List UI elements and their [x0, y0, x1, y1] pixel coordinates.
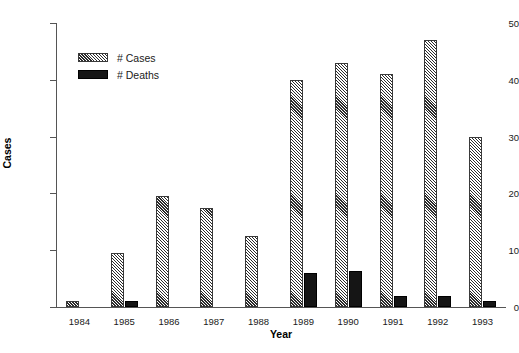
bar-cases-1987 — [200, 208, 213, 307]
legend-label-cases: # Cases — [117, 52, 156, 64]
legend-label-deaths: # Deaths — [117, 69, 159, 81]
bar-deaths-1989 — [304, 273, 317, 307]
bar-cases-1991 — [380, 74, 393, 307]
y-tick — [50, 250, 56, 251]
x-axis-line — [56, 307, 506, 308]
bar-cases-1988 — [245, 236, 258, 307]
bar-deaths-1993 — [483, 301, 496, 307]
y-tick — [50, 137, 56, 138]
bar-cases-1984 — [66, 301, 79, 307]
bar-cases-1992 — [424, 40, 437, 307]
y-tick — [50, 23, 56, 24]
legend-item-deaths: # Deaths — [78, 67, 228, 82]
x-tick-label: 1993 — [453, 316, 513, 327]
bar-cases-1990 — [335, 63, 348, 307]
chart-legend: # Cases # Deaths — [78, 50, 228, 84]
y-axis-title: Cases — [1, 103, 13, 203]
chart-figure: Cases Year 01020304050 19841985198619871… — [0, 0, 519, 353]
bar-deaths-1990 — [349, 271, 362, 307]
legend-item-cases: # Cases — [78, 50, 228, 65]
bar-cases-1985 — [111, 253, 124, 307]
bar-deaths-1985 — [125, 301, 138, 307]
y-tick — [50, 193, 56, 194]
y-tick — [50, 80, 56, 81]
bar-cases-1989 — [290, 80, 303, 307]
bar-deaths-1992 — [438, 296, 451, 307]
x-axis-title: Year — [56, 328, 506, 340]
bar-cases-1993 — [469, 137, 482, 307]
bar-cases-1986 — [156, 196, 169, 307]
bar-deaths-1991 — [394, 296, 407, 307]
chart-title — [0, 0, 519, 2]
legend-swatch-deaths-icon — [78, 70, 108, 79]
legend-swatch-cases-icon — [78, 53, 108, 62]
y-tick — [50, 307, 56, 308]
